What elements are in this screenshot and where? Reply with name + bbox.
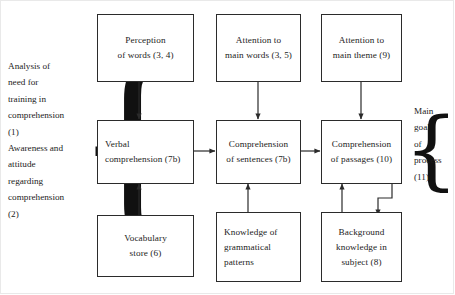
diagram-canvas: Analysis of need for training in compreh… bbox=[0, 0, 455, 295]
left-annotation-block-2: Awareness and attitude regarding compreh… bbox=[8, 140, 64, 222]
box-verbal-comprehension[interactable]: Verbal comprehension (7b) bbox=[97, 120, 194, 184]
left-annotation-line: (1) bbox=[8, 124, 64, 140]
box-knowledge-of-grammatical-patterns[interactable]: Knowledge of grammatical patterns bbox=[216, 212, 301, 282]
box-line: Knowledge of bbox=[217, 225, 278, 240]
left-annotation-line: Awareness and bbox=[8, 140, 64, 156]
left-annotation-line: Analysis of bbox=[8, 58, 64, 74]
box-line: of sentences (7b) bbox=[222, 152, 294, 167]
box-line: main words (3, 5) bbox=[221, 48, 296, 63]
box-line: Comprehension bbox=[225, 137, 292, 152]
left-annotation-block-1: Analysis of need for training in compreh… bbox=[8, 58, 64, 140]
box-line: store (6) bbox=[126, 246, 166, 261]
box-line: Verbal bbox=[98, 137, 130, 152]
box-line: main theme (9) bbox=[329, 48, 395, 63]
box-line: subject (8) bbox=[337, 255, 385, 270]
box-line: Background bbox=[335, 225, 389, 240]
box-vocabulary-store[interactable]: Vocabulary store (6) bbox=[97, 215, 194, 277]
box-line: patterns bbox=[217, 255, 254, 270]
right-annotation-line: Main bbox=[414, 103, 442, 119]
left-annotation-line: need for bbox=[8, 74, 64, 90]
box-line: Attention to bbox=[335, 33, 388, 48]
left-annotation-line: comprehension bbox=[8, 189, 64, 205]
left-annotation-line: training in bbox=[8, 91, 64, 107]
box-line: Comprehension bbox=[328, 137, 395, 152]
right-annotation-line: of bbox=[414, 136, 442, 152]
right-annotation-line: process bbox=[414, 152, 442, 168]
box-comprehension-of-sentences[interactable]: Comprehension of sentences (7b) bbox=[216, 120, 301, 184]
left-annotation-line: comprehension bbox=[8, 107, 64, 123]
box-comprehension-of-passages[interactable]: Comprehension of passages (10) bbox=[321, 120, 402, 184]
box-line: knowledge in bbox=[332, 240, 391, 255]
box-line: Perception bbox=[121, 33, 169, 48]
left-annotation-line: (2) bbox=[8, 206, 64, 222]
right-annotation-line: (11) bbox=[414, 169, 442, 185]
box-attention-to-main-words[interactable]: Attention to main words (3, 5) bbox=[216, 14, 301, 82]
box-background-knowledge-in-subject[interactable]: Background knowledge in subject (8) bbox=[321, 212, 402, 282]
box-attention-to-main-theme[interactable]: Attention to main theme (9) bbox=[321, 14, 402, 82]
right-annotation-line: goal bbox=[414, 119, 442, 135]
box-line: of words (3, 4) bbox=[113, 48, 177, 63]
box-line: of passages (10) bbox=[327, 152, 396, 167]
box-line: grammatical bbox=[217, 240, 271, 255]
box-line: Vocabulary bbox=[120, 231, 171, 246]
box-line: Attention to bbox=[232, 33, 285, 48]
box-line: comprehension (7b) bbox=[98, 152, 181, 167]
left-annotation-line: attitude bbox=[8, 156, 64, 172]
right-annotation-block-1: Main goal of process (11) bbox=[414, 103, 442, 185]
box-perception-of-words[interactable]: Perception of words (3, 4) bbox=[97, 14, 194, 82]
left-annotation-line: regarding bbox=[8, 173, 64, 189]
